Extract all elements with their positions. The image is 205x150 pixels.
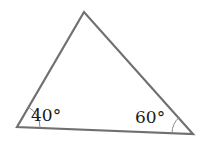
triangle-diagram: 40° 60°	[0, 0, 205, 150]
angle-label-right: 60°	[135, 107, 165, 127]
angle-label-left: 40°	[31, 105, 61, 125]
angle-arc-right	[172, 117, 180, 133]
